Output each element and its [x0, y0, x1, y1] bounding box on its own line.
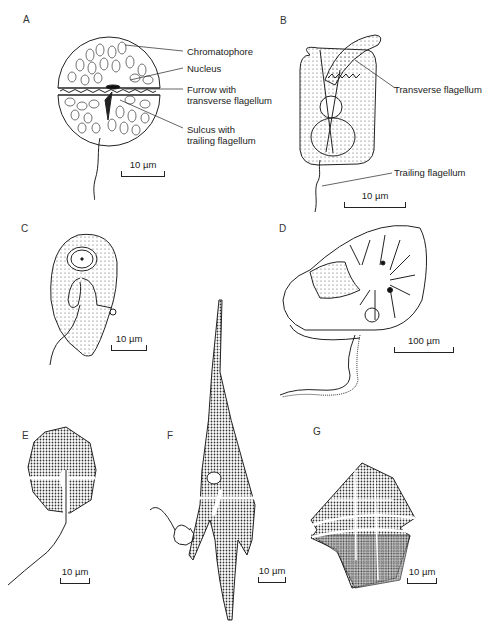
label-furrow-2: transverse flagellum	[187, 95, 272, 106]
scale-bar-d: 100 µm	[394, 335, 454, 353]
cell-c-illustration	[50, 234, 117, 365]
scale-bar-a: 10 µm	[121, 159, 165, 177]
label-sulcus: Sulcus with	[187, 124, 235, 135]
scale-bar-g: 10 µm	[407, 566, 437, 584]
cell-e-illustration	[8, 427, 96, 585]
scale-bar-f: 10 µm	[258, 565, 286, 583]
label-furrow: Furrow with	[187, 84, 236, 95]
label-chromatophore: Chromatophore	[187, 46, 253, 57]
scale-bar-c: 10 µm	[111, 333, 147, 351]
scale-bar-g-label: 10 µm	[409, 566, 436, 577]
scale-bar-e-label: 10 µm	[62, 566, 89, 577]
scale-bar-a-label: 10 µm	[130, 159, 157, 170]
scale-bar-b-label: 10 µm	[362, 190, 389, 201]
cell-b-illustration	[300, 35, 395, 212]
scale-bar-b: 10 µm	[344, 190, 406, 208]
cell-f-illustration	[150, 300, 255, 620]
panel-letter-g: G	[313, 426, 321, 437]
label-trailing-flagellum: Trailing flagellum	[394, 167, 465, 178]
label-sulcus-2: trailing flagellum	[187, 135, 256, 146]
label-transverse-flagellum: Transverse flagellum	[394, 84, 482, 95]
panel-letter-c: C	[21, 223, 28, 234]
label-nucleus: Nucleus	[187, 63, 221, 74]
panel-letter-f: F	[167, 430, 173, 441]
panel-letter-a: A	[23, 14, 30, 25]
scale-bar-c-label: 10 µm	[116, 333, 143, 344]
scale-bar-e: 10 µm	[60, 566, 90, 584]
scale-bar-d-label: 100 µm	[408, 335, 440, 346]
panel-letter-d: D	[279, 223, 286, 234]
panel-letter-e: E	[22, 430, 29, 441]
scale-bar-f-label: 10 µm	[259, 565, 286, 576]
cell-d-illustration	[280, 226, 427, 397]
panel-letter-b: B	[280, 15, 287, 26]
cell-g-illustration	[311, 463, 415, 588]
